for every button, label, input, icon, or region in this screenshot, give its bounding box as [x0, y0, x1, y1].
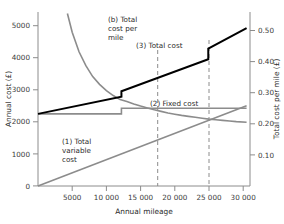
x-ticks: 5000 10 000 15 000 20 000 25 000 30 000 — [63, 186, 256, 202]
y-tick-label-0: 0 — [25, 182, 30, 191]
x-tick-label-25000: 25 000 — [196, 193, 222, 202]
y2-tick-label-050: 0.50 — [258, 26, 274, 35]
annotation-b-line3: mile — [108, 33, 124, 42]
annotation-b-line1: (b) Total — [108, 15, 137, 24]
y-tick-label-4000: 4000 — [12, 53, 31, 62]
annotation-1-line1: (1) Total — [62, 137, 91, 146]
cost-mileage-chart: 0 1000 2000 3000 4000 5000 0.10 0.20 0.3… — [0, 0, 284, 224]
annotation-total-cost-per-mile: (b) Total cost per mile — [108, 15, 137, 42]
annotation-total-variable-cost: (1) Total variable cost — [62, 137, 92, 164]
y-tick-label-5000: 5000 — [12, 21, 31, 30]
x-tick-label-5000: 5000 — [63, 193, 82, 202]
annotation-1-line3: cost — [62, 155, 77, 164]
chart-container: 0 1000 2000 3000 4000 5000 0.10 0.20 0.3… — [0, 0, 284, 224]
x-tick-label-10000: 10 000 — [94, 193, 120, 202]
y-left-axis-title: Annual cost (£) — [4, 71, 13, 127]
y2-tick-label-010: 0.10 — [258, 151, 274, 160]
y-left-ticks: 0 1000 2000 3000 4000 5000 — [12, 21, 38, 190]
annotation-1-line2: variable — [62, 146, 92, 155]
series-fixed-cost — [38, 108, 247, 114]
y-tick-label-2000: 2000 — [12, 117, 31, 126]
y-tick-label-3000: 3000 — [12, 85, 31, 94]
y-right-ticks: 0.10 0.20 0.30 0.40 0.50 — [250, 26, 274, 159]
x-tick-label-30000: 30 000 — [231, 193, 257, 202]
x-tick-label-20000: 20 000 — [162, 193, 188, 202]
x-tick-label-15000: 15 000 — [128, 193, 154, 202]
annotation-total-cost: (3) Total cost — [136, 41, 183, 50]
annotation-fixed-cost: (2) Fixed cost — [150, 99, 198, 108]
x-axis-title: Annual mileage — [115, 207, 173, 216]
y-tick-label-1000: 1000 — [12, 150, 31, 159]
annotation-b-line2: cost per — [108, 24, 137, 33]
y-right-axis-title: Total cost per mile (£) — [272, 59, 281, 141]
